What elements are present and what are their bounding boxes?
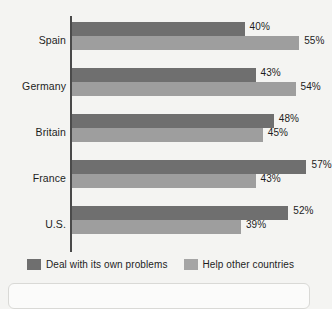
bar-us-own-problems — [72, 206, 288, 220]
bar-value-label: 52% — [293, 205, 313, 216]
bar-us-help-others — [72, 220, 241, 234]
bar-spain-own-problems — [72, 22, 245, 36]
bar-row: 48% — [72, 114, 321, 128]
bar-germany-help-others — [72, 82, 296, 96]
bar-value-label: 54% — [301, 81, 321, 92]
legend-item-help-other-countries: Help other countries — [184, 259, 295, 270]
bar-row: 43% — [72, 68, 321, 82]
bar-row: 52% — [72, 206, 321, 220]
legend-label-deal-with-own-problems: Deal with its own problems — [46, 259, 168, 270]
bar-row: 45% — [72, 128, 321, 142]
legend-label-help-other-countries: Help other countries — [203, 259, 295, 270]
bar-row: 57% — [72, 160, 321, 174]
bar-value-label: 43% — [261, 173, 281, 184]
bar-group: Britain48%45% — [0, 114, 321, 142]
bar-group: France57%43% — [0, 160, 321, 188]
bar-value-label: 55% — [304, 35, 324, 46]
bar-value-label: 48% — [279, 113, 299, 124]
bar-value-label: 43% — [261, 67, 281, 78]
bar-value-label: 39% — [246, 219, 266, 230]
category-label-france: France — [33, 172, 66, 184]
bar-germany-own-problems — [72, 68, 256, 82]
bar-row: 39% — [72, 220, 321, 234]
bar-group: Spain40%55% — [0, 22, 321, 50]
plot-area: Spain40%55%Germany43%54%Britain48%45%Fra… — [0, 14, 321, 254]
category-label-germany: Germany — [22, 80, 66, 92]
bar-france-own-problems — [72, 160, 306, 174]
bar-row: 55% — [72, 36, 321, 50]
bar-group: U.S.52%39% — [0, 206, 321, 234]
bar-value-label: 45% — [268, 127, 288, 138]
bar-row: 54% — [72, 82, 321, 96]
page-frame-border — [8, 283, 310, 309]
category-label-spain: Spain — [39, 34, 66, 46]
chart-legend: Deal with its own problems Help other co… — [0, 259, 321, 270]
legend-swatch-light — [184, 259, 198, 270]
bar-britain-own-problems — [72, 114, 274, 128]
category-label-us: U.S. — [45, 218, 66, 230]
bar-britain-help-others — [72, 128, 263, 142]
bar-spain-help-others — [72, 36, 299, 50]
bar-value-label: 40% — [250, 21, 270, 32]
bar-row: 40% — [72, 22, 321, 36]
legend-item-deal-with-own-problems: Deal with its own problems — [27, 259, 168, 270]
legend-swatch-dark — [27, 259, 41, 270]
bar-france-help-others — [72, 174, 256, 188]
bar-group: Germany43%54% — [0, 68, 321, 96]
bar-row: 43% — [72, 174, 321, 188]
bar-value-label: 57% — [311, 159, 331, 170]
category-label-britain: Britain — [36, 126, 66, 138]
